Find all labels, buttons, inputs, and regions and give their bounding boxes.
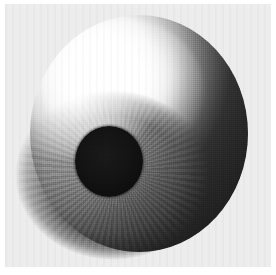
pupil <box>75 126 143 197</box>
eyeball-figure <box>0 0 276 275</box>
image-plate <box>5 4 271 267</box>
